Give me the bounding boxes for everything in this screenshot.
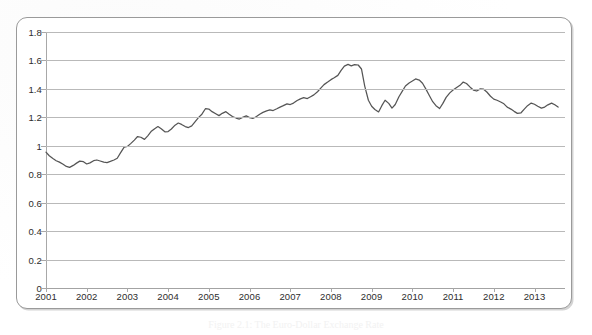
gridline	[46, 288, 565, 289]
x-tick-label: 2006	[239, 291, 261, 302]
x-tick-label: 2005	[198, 291, 220, 302]
x-tick-label: 2001	[35, 291, 57, 302]
gridline	[46, 231, 565, 232]
y-tick-mark	[41, 174, 46, 175]
y-tick-mark	[41, 203, 46, 204]
series-line	[46, 64, 558, 167]
gridline	[46, 117, 565, 118]
x-tick-label: 2003	[117, 291, 139, 302]
y-tick-mark	[41, 231, 46, 232]
y-tick-label: 0.6	[28, 197, 42, 208]
y-tick-label: 0.2	[28, 254, 42, 265]
y-tick-mark	[41, 89, 46, 90]
gridline	[46, 60, 565, 61]
x-tick-label: 2010	[402, 291, 424, 302]
gridline	[46, 146, 565, 147]
y-tick-mark	[41, 32, 46, 33]
x-tick-label: 2008	[320, 291, 342, 302]
plot-area	[46, 32, 565, 288]
x-tick-label: 2007	[279, 291, 301, 302]
gridline	[46, 32, 565, 33]
y-tick-label: 1.2	[28, 112, 42, 123]
y-tick-label: 0.8	[28, 169, 42, 180]
figure-caption: Figure 2.1: The Euro-Dollar Exchange Rat…	[0, 319, 592, 330]
y-tick-mark	[41, 288, 46, 289]
y-tick-label: 1.6	[28, 55, 42, 66]
y-tick-label: 0.4	[28, 226, 42, 237]
gridline	[46, 89, 565, 90]
y-tick-mark	[41, 146, 46, 147]
y-tick-label: 1.4	[28, 83, 42, 94]
x-tick-label: 2013	[524, 291, 546, 302]
gridline	[46, 260, 565, 261]
x-tick-label: 2009	[361, 291, 383, 302]
gridline	[46, 203, 565, 204]
data-series-line-chart	[46, 32, 565, 288]
gridline	[46, 174, 565, 175]
x-tick-label: 2004	[157, 291, 179, 302]
y-tick-label: 1.8	[28, 27, 42, 38]
y-axis-tick-labels: 00.20.40.60.811.21.41.61.8	[0, 0, 42, 335]
x-tick-label: 2012	[483, 291, 505, 302]
y-tick-mark	[41, 260, 46, 261]
y-tick-mark	[41, 60, 46, 61]
x-tick-label: 2002	[76, 291, 98, 302]
x-tick-label: 2011	[443, 291, 464, 302]
y-tick-mark	[41, 117, 46, 118]
